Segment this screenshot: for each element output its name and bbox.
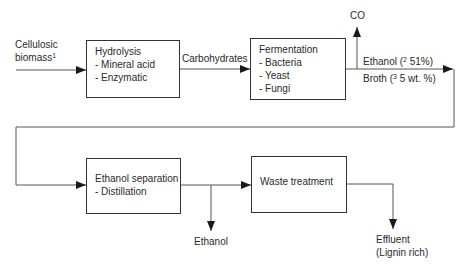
fermentation-box: Fermentation - Bacteria - Yeast - Fungi [250,38,346,100]
ethanol-yield-label: Ethanol (2 51%) [363,55,433,68]
input-label: Cellulosic biomass1 [15,38,58,64]
recycle-loop-line [16,69,454,185]
waste-title: Waste treatment [260,175,346,188]
input-label-line1: Cellulosic [15,38,58,51]
input-footnote: 1 [52,52,56,59]
spacer [95,163,180,172]
spacer [260,161,346,175]
ethanol-output-label: Ethanol [194,235,228,248]
co-label: CO [350,9,365,22]
hydrolysis-item: - Enzymatic [95,71,179,84]
input-label-line2: biomass [15,52,52,63]
fermentation-title: Fermentation [259,43,345,56]
input-label-line2-wrap: biomass1 [15,51,58,64]
flow-connectors [0,0,464,272]
ethanol-yield-value: 51%) [407,56,433,67]
ethanol-yield-footnote: 2 [403,56,407,63]
effluent-line [346,184,393,200]
hydrolysis-item: - Mineral acid [95,58,179,71]
hydrolysis-box: Hydrolysis - Mineral acid - Enzymatic [86,40,180,98]
fermentation-item: - Yeast [259,69,345,82]
ethanol-separation-box: Ethanol separation - Distillation [86,158,181,214]
effluent-line1: Effluent [376,233,428,246]
broth-label: Broth (3 5 wt. %) [363,72,436,85]
effluent-line2: (Lignin rich) [376,246,428,259]
separation-item: - Distillation [95,185,180,198]
broth-value: 5 wt. %) [397,73,436,84]
fermentation-item: - Fungi [259,82,345,95]
ethanol-yield-prefix: Ethanol ( [363,56,403,67]
broth-prefix: Broth ( [363,73,393,84]
waste-treatment-box: Waste treatment [251,156,347,213]
fermentation-item: - Bacteria [259,56,345,69]
separation-title: Ethanol separation [95,172,180,185]
effluent-label: Effluent (Lignin rich) [376,233,428,259]
broth-footnote: 3 [393,73,397,80]
hydrolysis-title: Hydrolysis [95,45,179,58]
carbohydrates-label: Carbohydrates [182,52,248,65]
